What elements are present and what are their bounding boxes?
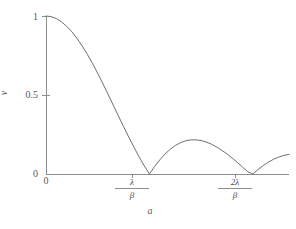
y-tick-label-1: 1 (8, 12, 38, 22)
x-tick-lambda-numerator: λ (115, 177, 149, 189)
x-tick-label-lambda-over-beta: λ β (115, 177, 149, 201)
x-tick-2lambda-denominator: β (218, 189, 252, 200)
data-curve-sinc (46, 16, 289, 174)
x-tick-label-2lambda-over-beta: 2λ β (218, 177, 252, 201)
y-tick-label-0-5: 0.5 (8, 90, 38, 100)
x-tick-lambda-denominator: β (115, 189, 149, 200)
figure-container: v 1 0.5 0 0 λ β 2λ β a (0, 0, 296, 229)
x-tick-2lambda-numerator: 2λ (218, 177, 252, 189)
x-tick-label-0: 0 (36, 176, 56, 186)
y-tick-label-0: 0 (8, 169, 38, 179)
x-axis-title: a (140, 206, 160, 216)
